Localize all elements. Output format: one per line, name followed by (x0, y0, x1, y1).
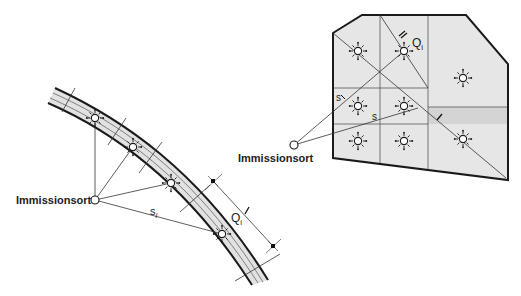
area-receiver-label: Immissionsort (238, 152, 314, 164)
area-distance-label-2: s (336, 92, 341, 103)
area-source-diagram: Qi s s l Immissionsort (238, 15, 508, 180)
open-circle-icon (91, 196, 99, 204)
source-label: Qi (231, 211, 242, 227)
segment-length-label: l (250, 209, 251, 210)
road-band (48, 88, 268, 285)
lane-line (50, 98, 258, 283)
receiver-label: Immissionsort (16, 194, 92, 206)
diagram-canvas: Immissionsort si Qi l (0, 0, 521, 296)
distance-label: si (150, 205, 158, 220)
open-circle-icon (290, 141, 298, 149)
road-line-source-diagram: Immissionsort si Qi l (16, 88, 281, 285)
area-distance-label: s (372, 111, 377, 122)
